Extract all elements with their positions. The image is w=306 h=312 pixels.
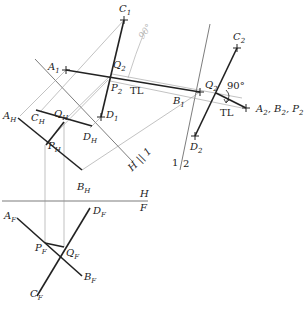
- label-fold-1-2-left: 1: [172, 157, 178, 168]
- label-d1: D1: [105, 109, 119, 123]
- label-angle-90: 90°: [227, 80, 245, 91]
- label-ch: CH: [31, 112, 46, 126]
- label-d2: D2: [189, 141, 203, 155]
- handwritten-note: 90°: [136, 22, 153, 41]
- label-c2: C2: [233, 31, 246, 45]
- label-q2-view2: Q2: [205, 79, 218, 93]
- label-tl-view2: TL: [220, 107, 234, 118]
- label-fold-1-2-right: 2: [183, 158, 189, 169]
- label-fold-f: F: [139, 202, 148, 213]
- diagram-canvas: 90° C1 A1 Q2 P2 TL B1 D1 AH CH QH DH PH …: [0, 0, 306, 312]
- label-dh: DH: [82, 131, 98, 145]
- label-c1: C1: [119, 3, 131, 17]
- label-a1: A1: [47, 61, 60, 75]
- label-qh: QH: [54, 108, 69, 122]
- label-q2-view1: Q2: [113, 59, 126, 73]
- label-fold-h: H: [139, 188, 149, 199]
- label-ah: AH: [2, 110, 17, 124]
- label-ph: PH: [47, 140, 62, 154]
- label-b1: B1: [172, 95, 185, 109]
- label-bh: BH: [76, 181, 91, 195]
- label-p2-view1: P2: [110, 82, 123, 96]
- label-af: AF: [3, 210, 17, 224]
- label-fold-h-1: H || 1: [125, 145, 154, 174]
- geometry-drawing: 90° C1 A1 Q2 P2 TL B1 D1 AH CH QH DH PH …: [0, 0, 306, 312]
- label-qf: QF: [66, 247, 80, 261]
- label-bf: BF: [83, 271, 97, 285]
- label-cf: CF: [30, 288, 44, 302]
- label-a2-b2-p2: A2, B2, P2: [255, 103, 304, 117]
- label-tl-view1: TL: [130, 85, 144, 96]
- label-df: DF: [92, 205, 107, 219]
